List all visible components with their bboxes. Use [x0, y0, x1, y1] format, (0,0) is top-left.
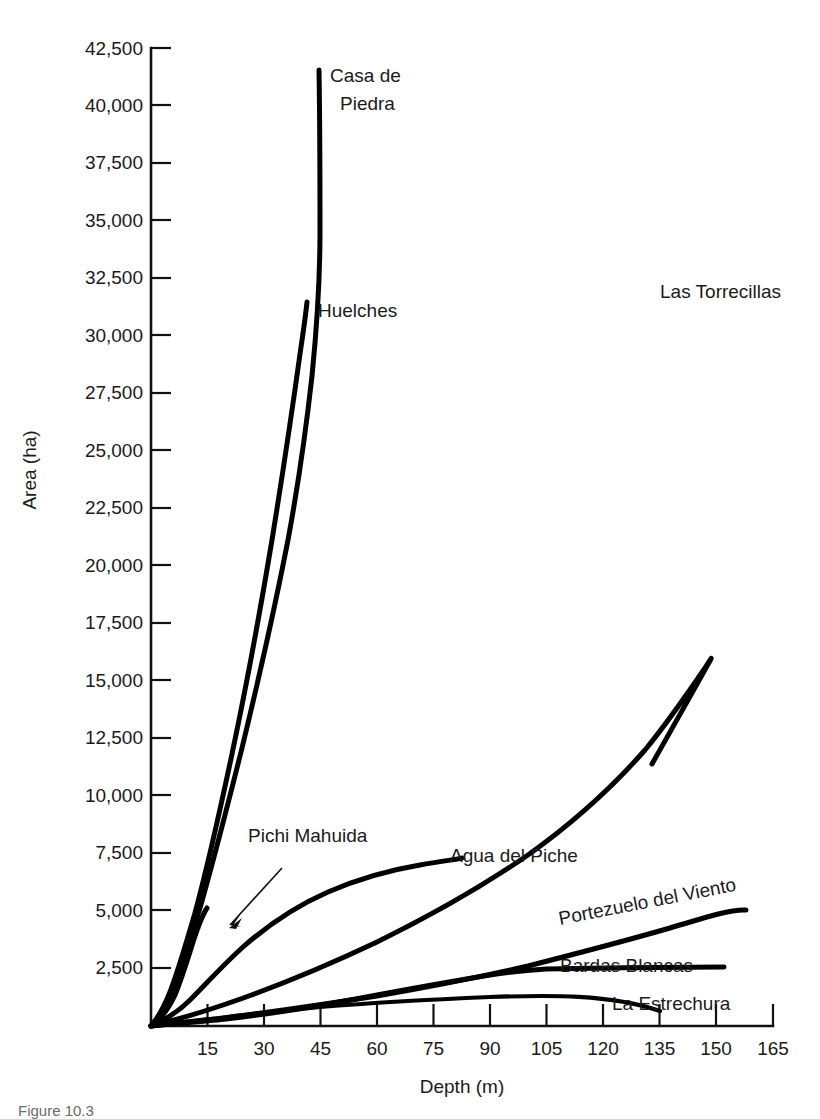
x-axis-tick-labels: 15 30 45 60 75 90 105 120 135 150 165 [197, 1038, 789, 1059]
y-tick-label: 35,000 [85, 210, 143, 231]
series-label-pichi-mahuida: Pichi Mahuida [248, 825, 368, 846]
data-curves [151, 70, 746, 1026]
x-tick-label: 75 [423, 1038, 444, 1059]
x-tick-label: 135 [644, 1038, 676, 1059]
curve-la-estrechura [151, 996, 660, 1026]
figure-caption: Figure 10.3 [18, 1102, 94, 1119]
x-tick-label: 45 [310, 1038, 331, 1059]
y-tick-label: 30,000 [85, 325, 143, 346]
y-tick-label: 25,000 [85, 440, 143, 461]
y-tick-label: 42,500 [85, 38, 143, 59]
x-tick-label: 30 [253, 1038, 274, 1059]
y-tick-label: 20,000 [85, 555, 143, 576]
depth-area-chart: 42,500 40,000 37,500 35,000 32,500 30,00… [0, 0, 820, 1119]
y-tick-label: 5,000 [95, 900, 143, 921]
y-tick-label: 32,500 [85, 267, 143, 288]
series-label-huelches: Huelches [318, 300, 397, 321]
series-label-las-torrecillas: Las Torrecillas [660, 281, 781, 302]
y-axis-tick-labels: 42,500 40,000 37,500 35,000 32,500 30,00… [85, 38, 143, 978]
curve-casa-de-piedra [151, 70, 320, 1026]
y-tick-label: 37,500 [85, 152, 143, 173]
leader-line [230, 868, 282, 925]
y-axis-title: Area (ha) [19, 430, 40, 509]
y-tick-label: 17,500 [85, 612, 143, 633]
y-tick-label: 2,500 [95, 957, 143, 978]
x-tick-label: 90 [479, 1038, 500, 1059]
y-axis [151, 48, 171, 1026]
y-tick-label: 7,500 [95, 842, 143, 863]
y-tick-label: 12,500 [85, 727, 143, 748]
figure-caption-text: Figure 10.3 [18, 1102, 94, 1119]
y-axis-ticks [151, 48, 171, 968]
series-label-la-estrechura: La Estrechura [612, 993, 731, 1014]
y-tick-label: 22,500 [85, 497, 143, 518]
y-tick-label: 40,000 [85, 95, 143, 116]
figure-container: 42,500 40,000 37,500 35,000 32,500 30,00… [0, 0, 820, 1119]
x-tick-label: 60 [366, 1038, 387, 1059]
y-tick-label: 27,500 [85, 382, 143, 403]
x-tick-label: 105 [531, 1038, 563, 1059]
x-tick-label: 150 [700, 1038, 732, 1059]
x-tick-label: 15 [197, 1038, 218, 1059]
series-label-bardas-blancas: Bardas Blancas [560, 955, 693, 976]
y-tick-label: 10,000 [85, 785, 143, 806]
series-labels: Casa de Piedra Huelches Las Torrecillas … [248, 65, 781, 1014]
x-tick-label: 165 [757, 1038, 789, 1059]
series-label-portezuelo-del-viento: Portezuelo del Viento [557, 874, 738, 929]
y-tick-label: 15,000 [85, 670, 143, 691]
x-axis-title: Depth (m) [420, 1076, 504, 1097]
series-label-casa-de-piedra-line1: Casa de [330, 65, 401, 86]
series-label-agua-del-piche: Agua del Piche [450, 845, 578, 866]
x-tick-label: 120 [587, 1038, 619, 1059]
series-label-casa-de-piedra-line2: Piedra [340, 93, 395, 114]
